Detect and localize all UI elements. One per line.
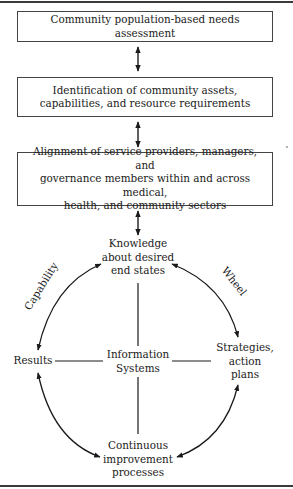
node-strategies-line3: plans	[210, 368, 280, 382]
node-results-text: Results	[13, 354, 53, 368]
node-continuous-line3: processes	[88, 466, 188, 480]
bottom-rule	[0, 485, 293, 487]
node-knowledge: Knowledge about desired end states	[88, 237, 188, 278]
node-knowledge-line2: about desired	[88, 251, 188, 265]
node-strategies-line2: action	[210, 355, 280, 369]
node-information-systems: Information Systems	[98, 348, 178, 375]
node-continuous-line2: improvement	[88, 453, 188, 467]
node-continuous-line1: Continuous	[88, 439, 188, 453]
node-strategies: Strategies, action plans	[210, 341, 280, 382]
node-information-line2: Systems	[98, 362, 178, 376]
node-knowledge-line3: end states	[88, 264, 188, 278]
node-results: Results	[13, 354, 53, 368]
node-information-line1: Information	[98, 348, 178, 362]
node-strategies-line1: Strategies,	[210, 341, 280, 355]
node-continuous-improvement: Continuous improvement processes	[88, 439, 188, 480]
node-knowledge-line1: Knowledge	[88, 237, 188, 251]
